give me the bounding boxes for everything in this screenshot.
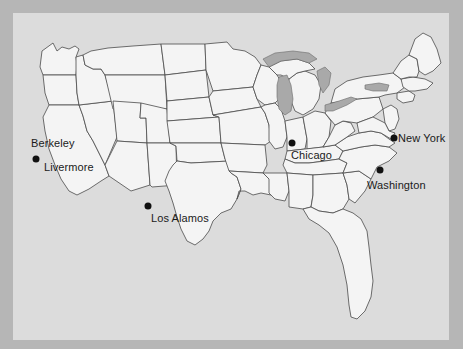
state-south-dakota <box>165 70 209 101</box>
state-north-dakota <box>161 44 206 75</box>
city-marker-new-york <box>391 135 398 142</box>
city-label-chicago: Chicago <box>291 149 332 161</box>
us-map-panel: Berkeley Livermore Los Alamos Chicago Wa… <box>13 13 449 340</box>
state-massachusetts <box>401 77 433 91</box>
state-connecticut <box>397 91 415 103</box>
state-washington <box>40 43 79 75</box>
city-label-new-york: New York <box>398 132 445 144</box>
city-marker-washington <box>377 167 384 174</box>
us-map-outline <box>13 13 449 340</box>
state-texas <box>165 161 241 245</box>
map-screenshot: Berkeley Livermore Los Alamos Chicago Wa… <box>0 0 463 349</box>
state-alabama <box>287 173 313 209</box>
state-kansas <box>167 117 221 143</box>
state-minnesota <box>205 42 261 91</box>
city-label-los-alamos: Los Alamos <box>151 212 209 224</box>
state-arkansas <box>221 143 267 173</box>
city-marker-chicago <box>289 140 296 147</box>
city-label-washington: Washington <box>367 179 426 191</box>
city-label-berkeley: Berkeley <box>31 137 75 149</box>
state-georgia <box>311 173 349 213</box>
state-vermont-nh <box>393 55 419 79</box>
state-oregon <box>43 75 79 105</box>
state-oklahoma <box>170 143 229 163</box>
city-marker-livermore <box>33 156 40 163</box>
state-florida <box>303 207 373 319</box>
city-marker-los-alamos <box>145 203 152 210</box>
city-label-livermore: Livermore <box>44 161 94 173</box>
lake-ontario <box>365 83 389 91</box>
